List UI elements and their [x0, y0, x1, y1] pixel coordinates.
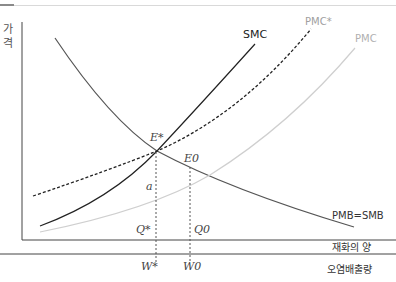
y-axis-label-2: 격: [3, 37, 13, 50]
goods-axis-label: 재화의 양: [332, 242, 371, 253]
w-star-label: W*: [141, 260, 158, 273]
y-axis-label-1: 가: [3, 23, 13, 36]
w-zero-label: W0: [183, 260, 201, 273]
q-star-label: Q*: [136, 223, 151, 236]
q-zero-label: Q0: [194, 223, 210, 236]
externality-diagram: 가 격 SMC PMC* PMC PMB=SMB E* E0 a Q* Q0 W…: [0, 0, 396, 282]
pmb-smb-curve: [55, 38, 354, 227]
pollution-axis-label: 오염배출량: [327, 264, 372, 275]
pmb-smb-label: PMB=SMB: [332, 210, 384, 221]
smc-curve: [40, 44, 255, 226]
smc-label: SMC: [243, 28, 267, 41]
pmc-star-label: PMC*: [305, 16, 332, 27]
e-star-label: E*: [149, 131, 164, 144]
e-zero-label: E0: [183, 152, 199, 165]
pmc-star-curve: [33, 29, 311, 196]
a-label: a: [146, 180, 153, 193]
pmc-label: PMC: [355, 33, 377, 44]
